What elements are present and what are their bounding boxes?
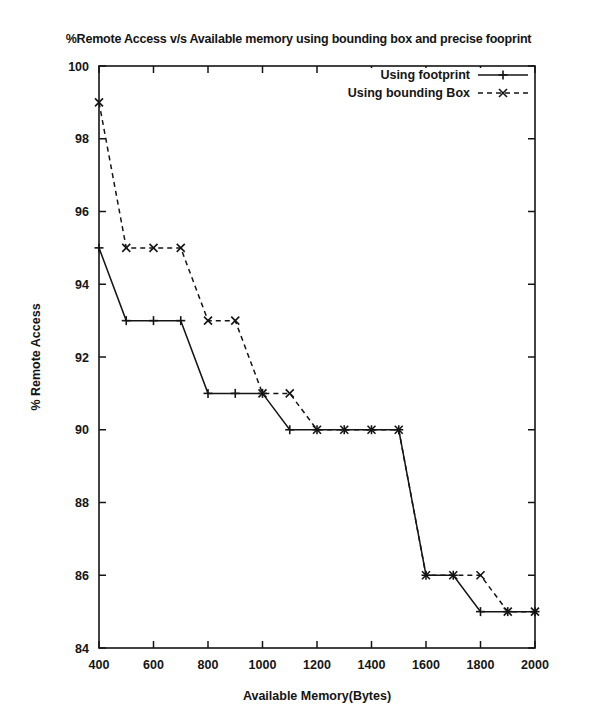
series-using-bounding-box — [95, 98, 539, 615]
y-tick-label: 92 — [75, 351, 89, 365]
chart-figure: %Remote Access v/s Available memory usin… — [0, 0, 597, 714]
y-tick-label: 86 — [75, 569, 89, 583]
y-tick-label: 90 — [75, 423, 89, 437]
series-layer — [95, 98, 540, 616]
legend-item-using-footprint: Using footprint — [380, 68, 470, 82]
series-line — [99, 102, 535, 611]
x-axis-tick-labels: 400600800100012001400160018002000 — [89, 658, 549, 672]
legend-item-using-bounding-box: Using bounding Box — [348, 86, 470, 100]
y-tick-label: 100 — [68, 60, 89, 74]
x-tick-label: 1000 — [249, 658, 277, 672]
x-tick-label: 2000 — [521, 658, 549, 672]
y-tick-label: 98 — [75, 132, 89, 146]
x-axis-ticks — [99, 66, 535, 648]
y-tick-label: 96 — [75, 205, 89, 219]
x-tick-label: 600 — [143, 658, 164, 672]
x-tick-label: 800 — [198, 658, 219, 672]
y-tick-label: 84 — [75, 642, 89, 656]
chart-plot-area: 8486889092949698100 40060080010001200140… — [0, 0, 597, 714]
x-tick-label: 400 — [89, 658, 110, 672]
y-axis-title: % Remote Access — [29, 303, 43, 410]
x-axis-title: Available Memory(Bytes) — [243, 689, 391, 703]
y-tick-label: 94 — [75, 278, 89, 292]
x-tick-label: 1800 — [467, 658, 495, 672]
y-tick-label: 88 — [75, 496, 89, 510]
plot-frame — [99, 66, 535, 648]
y-axis-ticks — [99, 66, 535, 648]
x-tick-label: 1200 — [303, 658, 331, 672]
x-tick-label: 1600 — [412, 658, 440, 672]
chart-legend: Using footprint Using bounding Box — [345, 68, 533, 108]
x-tick-label: 1400 — [358, 658, 386, 672]
y-axis-tick-labels: 8486889092949698100 — [68, 60, 89, 656]
